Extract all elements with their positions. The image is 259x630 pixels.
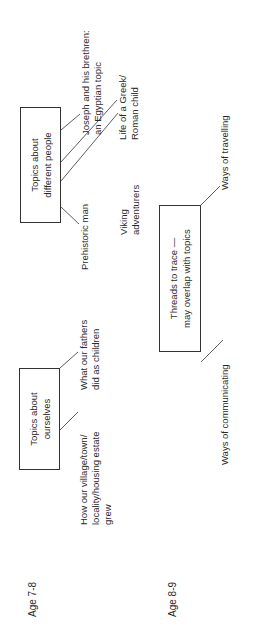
threads-to-trace-box: Threads to trace — may overlap with topi…	[159, 205, 201, 352]
thread-ways-of-travelling: Ways of travelling	[219, 115, 231, 190]
connector-communicating	[201, 340, 223, 362]
age-label-8-9: Age 8-9	[167, 582, 179, 617]
topic-web-diagram: Age 7-8 Age 8-9 Topics about ourselves H…	[0, 0, 259, 630]
topic-fathers-childhood: What our fathers did as children	[78, 320, 102, 390]
topics-about-ourselves-box: Topics about ourselves	[19, 368, 60, 470]
connector-fathers	[60, 352, 78, 368]
topic-village-growth: How our village/town/ locality/housing e…	[78, 432, 114, 525]
topic-joseph-egyptian: Joseph and his brethren: an Egyptian top…	[80, 30, 104, 135]
topics-about-different-people-label: Topics about different people	[28, 132, 54, 197]
topics-about-ourselves-label: Topics about ourselves	[27, 392, 53, 445]
topic-prehistoric-man: Prehistoric man	[79, 204, 91, 270]
topic-viking-adventurers: Viking adventurers	[118, 185, 142, 235]
connector-prehistoric	[61, 207, 79, 224]
threads-to-trace-label: Threads to trace — may overlap with topi…	[167, 229, 193, 328]
topics-about-different-people-box: Topics about different people	[20, 107, 61, 223]
age-label-7-8: Age 7-8	[27, 582, 39, 617]
topic-greek-roman-child: Life of a Greek/ Roman child	[117, 75, 141, 140]
thread-ways-of-communicating: Ways of communicating	[219, 365, 231, 466]
connector-travelling	[201, 186, 220, 205]
connector-joseph	[61, 114, 80, 130]
connector-village	[60, 412, 78, 430]
